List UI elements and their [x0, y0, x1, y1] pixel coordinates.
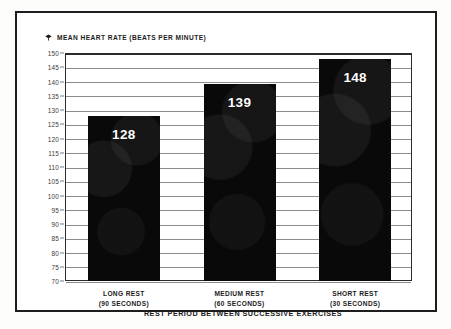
- y-axis-tick-label: 95: [51, 206, 59, 213]
- bar-value-label: 139: [204, 95, 276, 110]
- bar-value-label: 128: [88, 127, 160, 142]
- y-axis-tick-mark: [60, 152, 64, 153]
- y-axis-tick-mark: [60, 281, 64, 282]
- y-axis-tick-label: 100: [48, 192, 59, 199]
- y-axis-tick-label: 90: [51, 221, 59, 228]
- y-axis-tick-label: 150: [48, 50, 59, 57]
- y-axis-tick-mark: [60, 110, 64, 111]
- x-axis-category-label: LONG REST(90 SECONDS): [66, 289, 182, 308]
- y-axis-tick-mark: [60, 209, 64, 210]
- y-axis-tick-label: 70: [51, 278, 59, 285]
- y-axis-tick-label: 110: [48, 164, 59, 171]
- category-duration: (60 SECONDS): [182, 299, 298, 309]
- x-axis-category-label: MEDIUM REST(60 SECONDS): [182, 289, 298, 308]
- y-axis-tick-mark: [60, 81, 64, 82]
- y-axis-tick-mark: [60, 67, 64, 68]
- bar-value-label: 148: [319, 70, 391, 85]
- figure-outer-frame: MEAN HEART RATE (BEATS PER MINUTE) 15014…: [15, 11, 437, 312]
- category-duration: (30 SECONDS): [297, 299, 413, 309]
- bar: 148: [319, 59, 391, 281]
- y-axis-tick-label: 85: [51, 235, 59, 242]
- chart-title-text: MEAN HEART RATE (BEATS PER MINUTE): [57, 34, 206, 41]
- chart-title: MEAN HEART RATE (BEATS PER MINUTE): [45, 34, 206, 41]
- gridline: [66, 282, 411, 283]
- y-axis-tick-label: 105: [48, 178, 59, 185]
- diamond-marker-icon: [45, 34, 52, 41]
- y-axis-tick-mark: [60, 95, 64, 96]
- y-axis-tick-mark: [60, 124, 64, 125]
- y-axis-tick-label: 125: [48, 121, 59, 128]
- x-axis-category-label: SHORT REST(30 SECONDS): [297, 289, 413, 308]
- y-axis-tick-mark: [60, 238, 64, 239]
- category-duration: (90 SECONDS): [66, 299, 182, 309]
- y-axis-tick-label: 130: [48, 107, 59, 114]
- y-axis-tick-mark: [60, 138, 64, 139]
- y-axis-tick-label: 120: [48, 135, 59, 142]
- y-axis-tick-mark: [60, 224, 64, 225]
- bar: 139: [204, 84, 276, 281]
- category-name: MEDIUM REST: [214, 290, 264, 297]
- y-axis-tick-mark: [60, 167, 64, 168]
- y-axis-tick-label: 115: [48, 149, 59, 156]
- y-axis-tick-mark: [60, 195, 64, 196]
- bar: 128: [88, 116, 160, 281]
- x-axis-title: REST PERIOD BETWEEN SUCCESSIVE EXERCISES: [32, 309, 451, 318]
- bar-series: 128139148: [65, 53, 412, 281]
- y-axis-tick-label: 140: [48, 78, 59, 85]
- y-axis-tick-mark: [60, 266, 64, 267]
- y-axis-tick-mark: [60, 252, 64, 253]
- scanned-page-background: MEAN HEART RATE (BEATS PER MINUTE) 15014…: [0, 0, 451, 329]
- y-axis-tick-label: 135: [48, 92, 59, 99]
- y-axis-tick-mark: [60, 181, 64, 182]
- y-axis-tick-label: 145: [48, 64, 59, 71]
- category-name: SHORT REST: [332, 290, 378, 297]
- y-axis-tick-label: 75: [51, 263, 59, 270]
- category-name: LONG REST: [103, 290, 145, 297]
- y-axis-tick-labels: 1501451401351301251201151101051009590858…: [32, 53, 64, 281]
- y-axis-tick-label: 80: [51, 249, 59, 256]
- y-axis-tick-mark: [60, 53, 64, 54]
